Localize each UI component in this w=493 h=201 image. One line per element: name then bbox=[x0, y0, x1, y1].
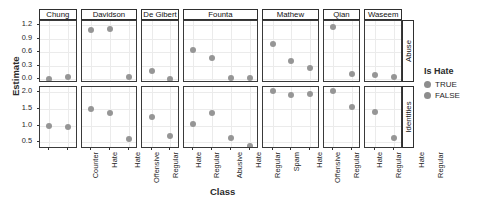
facet-strip-davidson: Davidson bbox=[81, 9, 138, 20]
data-point bbox=[349, 104, 355, 110]
facet-strip-label: Waseem bbox=[368, 10, 398, 19]
gridline-vertical bbox=[231, 21, 232, 81]
gridline-horizontal bbox=[365, 142, 401, 143]
data-point bbox=[307, 65, 313, 71]
gridline-vertical bbox=[91, 87, 92, 147]
gridline-vertical bbox=[250, 21, 251, 81]
facet-row-label: Identities bbox=[404, 101, 413, 132]
panel-identities-mathew bbox=[262, 86, 319, 148]
x-tick-label: Hate bbox=[254, 152, 263, 192]
x-tick-mark bbox=[211, 148, 212, 150]
gridline-horizontal bbox=[40, 66, 76, 67]
y-axis-title: Estimate bbox=[10, 56, 21, 96]
data-point bbox=[372, 109, 378, 115]
panel-abuse-qian bbox=[323, 20, 361, 82]
gridline-horizontal bbox=[40, 25, 76, 26]
gridline-horizontal bbox=[142, 25, 178, 26]
x-tick-mark bbox=[309, 148, 310, 150]
x-tick-mark bbox=[48, 148, 49, 150]
gridline-vertical bbox=[333, 21, 334, 81]
panel-abuse-waseem bbox=[364, 20, 402, 82]
legend-label: TRUE bbox=[435, 80, 457, 89]
y-tick-label: 1.0 bbox=[6, 120, 32, 129]
facet-strip-chung: Chung bbox=[39, 9, 77, 20]
x-tick-mark bbox=[230, 148, 231, 150]
data-point bbox=[270, 41, 276, 47]
x-tick-mark bbox=[393, 148, 394, 150]
x-tick-label: Offensive bbox=[333, 152, 342, 192]
panel-identities-chung bbox=[39, 86, 77, 148]
gridline-vertical bbox=[394, 21, 395, 81]
x-tick-mark bbox=[90, 148, 91, 150]
x-tick-label: Hate bbox=[110, 152, 119, 192]
panel-abuse-de-gibert bbox=[141, 20, 179, 82]
gridline-horizontal bbox=[142, 126, 178, 127]
x-tick-mark bbox=[351, 148, 352, 150]
data-point bbox=[209, 110, 215, 116]
panel-identities-de-gibert bbox=[141, 86, 179, 148]
gridline-horizontal bbox=[40, 92, 76, 93]
gridline-horizontal bbox=[365, 66, 401, 67]
data-point bbox=[167, 133, 173, 139]
gridline-vertical bbox=[212, 21, 213, 81]
facet-strip-qian: Qian bbox=[323, 9, 361, 20]
gridline-horizontal bbox=[365, 39, 401, 40]
gridline-vertical bbox=[110, 87, 111, 147]
data-point bbox=[307, 91, 313, 97]
gridline-horizontal bbox=[142, 109, 178, 110]
gridline-horizontal bbox=[184, 66, 257, 67]
gridline-horizontal bbox=[324, 66, 360, 67]
gridline-vertical bbox=[49, 21, 50, 81]
data-point bbox=[65, 124, 71, 130]
facet-row-strip-abuse: Abuse bbox=[402, 20, 414, 82]
x-tick-label: Abusive bbox=[235, 152, 244, 192]
gridline-horizontal bbox=[365, 92, 401, 93]
data-point bbox=[209, 55, 215, 61]
data-point bbox=[126, 74, 132, 80]
gridline-vertical bbox=[273, 87, 274, 147]
gridline-vertical bbox=[333, 87, 334, 147]
facet-strip-label: Mathew bbox=[277, 10, 304, 19]
legend-entry-false[interactable]: FALSE bbox=[424, 91, 460, 100]
y-tick-label: 1.5 bbox=[6, 103, 32, 112]
legend-entry-true[interactable]: TRUE bbox=[424, 80, 457, 89]
x-tick-mark bbox=[272, 148, 273, 150]
data-point bbox=[270, 88, 276, 94]
x-tick-label: Offensive bbox=[152, 152, 161, 192]
x-tick-label: Spam bbox=[292, 152, 301, 192]
data-point bbox=[288, 58, 294, 64]
gridline-vertical bbox=[129, 21, 130, 81]
x-tick-label: Counter bbox=[91, 152, 100, 192]
gridline-horizontal bbox=[365, 79, 401, 80]
x-tick-mark bbox=[109, 148, 110, 150]
x-tick-mark bbox=[192, 148, 193, 150]
x-tick-label: Hate bbox=[375, 152, 384, 192]
gridline-horizontal bbox=[40, 52, 76, 53]
x-tick-label: Hate bbox=[417, 152, 426, 192]
gridline-vertical bbox=[250, 87, 251, 147]
gridline-horizontal bbox=[142, 142, 178, 143]
gridline-horizontal bbox=[324, 92, 360, 93]
x-tick-mark bbox=[169, 148, 170, 150]
x-tick-mark bbox=[332, 148, 333, 150]
gridline-horizontal bbox=[40, 142, 76, 143]
y-tick-label: 0.5 bbox=[6, 136, 32, 145]
gridline-horizontal bbox=[142, 66, 178, 67]
panel-abuse-founta bbox=[183, 20, 258, 82]
gridline-vertical bbox=[291, 21, 292, 81]
gridline-horizontal bbox=[184, 79, 257, 80]
data-point bbox=[88, 106, 94, 112]
y-tick-label: 0.6 bbox=[6, 46, 32, 55]
data-point bbox=[372, 72, 378, 78]
x-tick-label: Regular bbox=[352, 152, 361, 192]
x-tick-label: Hate bbox=[133, 152, 142, 192]
facet-strip-label: De Gibert bbox=[143, 10, 176, 19]
y-tick-label: 1.2 bbox=[6, 19, 32, 28]
data-point bbox=[149, 114, 155, 120]
data-point bbox=[349, 71, 355, 77]
gridline-vertical bbox=[273, 21, 274, 81]
facet-strip-label: Founta bbox=[208, 10, 232, 19]
gridline-vertical bbox=[212, 87, 213, 147]
gridline-horizontal bbox=[142, 52, 178, 53]
gridline-horizontal bbox=[40, 79, 76, 80]
